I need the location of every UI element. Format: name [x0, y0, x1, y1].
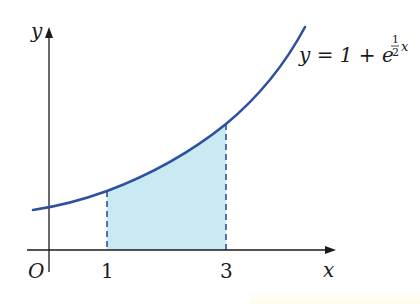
y-axis-arrow-icon — [45, 27, 53, 38]
tick-label-3: 3 — [220, 259, 233, 283]
svg-text:y = 1 + e: y = 1 + e — [298, 43, 394, 67]
shaded-region — [107, 124, 226, 250]
x-axis-arrow-icon — [325, 246, 336, 254]
equation-lhs: y = 1 + e — [298, 43, 394, 67]
tick-label-1: 1 — [101, 259, 114, 283]
exponent-numerator: 1 — [392, 33, 399, 46]
background-tint — [250, 290, 420, 304]
y-axis-label: y — [30, 19, 43, 43]
equation-label: y = 1 + e 1 2 x — [298, 33, 409, 67]
origin-label: O — [28, 259, 44, 283]
exponent-variable: x — [401, 39, 409, 54]
integral-diagram: y x O 1 3 y = 1 + e 1 2 x — [0, 0, 420, 304]
exponent-denominator: 2 — [392, 46, 399, 59]
x-axis-label: x — [323, 258, 334, 282]
